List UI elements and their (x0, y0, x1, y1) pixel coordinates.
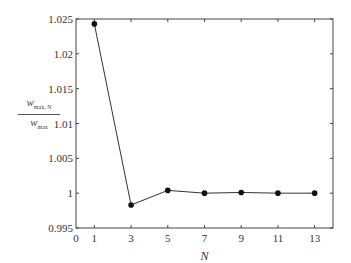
y-axis-title-denominator: wmax (14, 116, 64, 133)
data-point (312, 190, 318, 196)
data-point (202, 190, 208, 196)
data-point (165, 188, 171, 194)
data-point (128, 202, 134, 208)
x-axis-title: N (199, 249, 209, 263)
x-tick-label: 5 (165, 232, 171, 244)
data-point (275, 190, 281, 196)
x-tick-label: 11 (273, 232, 284, 244)
y-axis-ticks: 0.99511.0051.011.0151.021.025 (48, 13, 333, 234)
y-tick-label: 1.02 (54, 48, 73, 60)
fraction-bar (18, 114, 60, 115)
x-tick-label: 7 (202, 232, 208, 244)
y-axis-title-numerator: wmax, N (14, 96, 64, 113)
y-tick-label: 1 (68, 187, 74, 199)
x-tick-label: 9 (238, 232, 244, 244)
x-tick-label: 0 (73, 232, 79, 244)
y-tick-label: 1.015 (48, 83, 73, 95)
x-tick-label: 13 (309, 232, 321, 244)
y-tick-label: 0.995 (48, 222, 73, 234)
y-tick-label: 1.005 (48, 152, 73, 164)
data-point (92, 21, 98, 27)
x-tick-label: 3 (128, 232, 134, 244)
y-axis-title: wmax, N wmax (14, 96, 64, 133)
x-axis-ticks: 0135791113 (73, 19, 320, 244)
data-point (238, 190, 244, 196)
data-markers (92, 21, 318, 208)
data-line (94, 24, 314, 205)
y-tick-label: 1.025 (48, 13, 73, 25)
x-tick-label: 1 (92, 232, 98, 244)
